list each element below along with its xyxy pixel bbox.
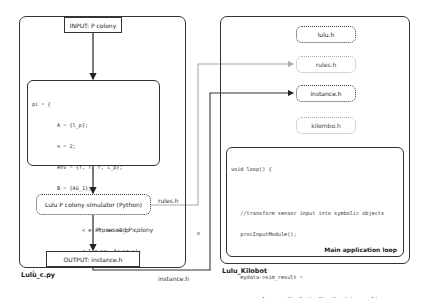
instance-h-edge-label: instance.h: [158, 275, 189, 282]
small-marker: [197, 232, 200, 235]
p-colony-code-box: pi = { A = {l_p}; n = 2; env = {f, f, f,…: [27, 80, 160, 166]
file-rules-h: rules.h: [296, 56, 356, 73]
main-loop-caption: Main application loop: [324, 246, 397, 253]
processed-p-colony-label: Processed P colony: [96, 226, 153, 233]
file-lulu-h: lulu.h: [296, 26, 356, 43]
rules-h-edge-label: rules.h: [158, 197, 178, 204]
simulator-box: Lulu P colony simulator (Python): [36, 194, 151, 215]
main-loop-code: void loop() { //transform sensor input i…: [231, 152, 400, 298]
file-kilombo-h: kilombo.h: [296, 117, 356, 134]
input-box: INPUT: P colony: [64, 17, 122, 33]
main-loop-box: void loop() { //transform sensor input i…: [226, 147, 404, 257]
file-instance-h: instance.h: [296, 85, 356, 102]
output-box: OUTPUT: instance.h: [46, 251, 140, 267]
